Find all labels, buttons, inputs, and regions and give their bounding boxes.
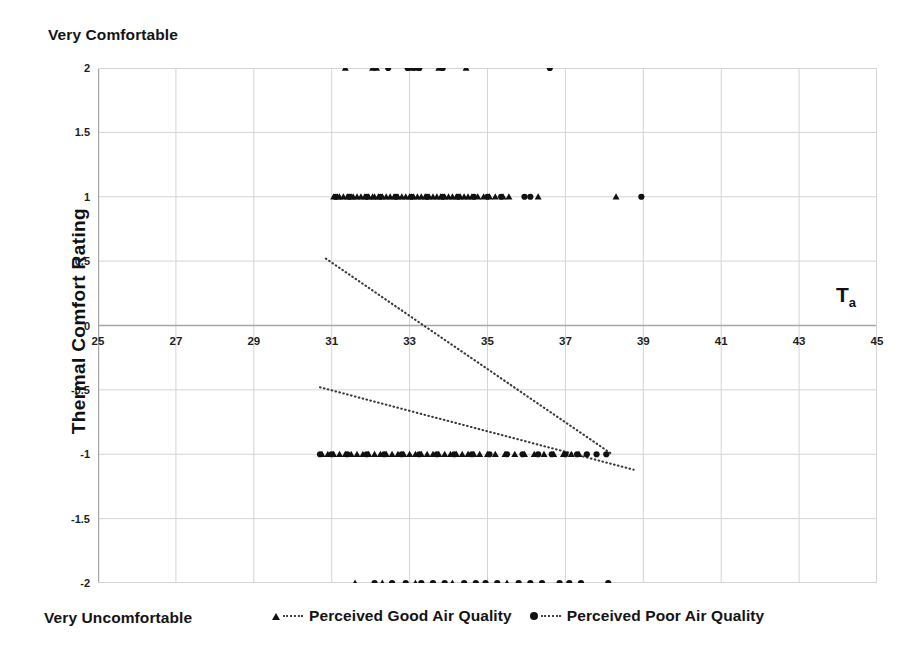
circle-marker-icon xyxy=(562,451,568,457)
y-axis-bottom-annotation: Very Uncomfortable xyxy=(44,609,192,627)
circle-marker-icon xyxy=(469,451,475,457)
circle-marker-icon xyxy=(364,194,370,200)
circle-marker-icon xyxy=(408,194,414,200)
legend-entry-poor-air-quality: Perceived Poor Air Quality xyxy=(530,607,765,625)
triangle-marker-icon xyxy=(272,613,280,620)
y-tick-label: 1 xyxy=(50,191,90,203)
circle-marker-icon xyxy=(527,194,533,200)
circle-marker-icon xyxy=(603,451,609,457)
circle-marker-icon xyxy=(329,451,335,457)
x-tick-label: 33 xyxy=(390,335,430,347)
plot-area xyxy=(98,68,877,583)
circle-marker-icon xyxy=(549,451,555,457)
x-tick-label: 31 xyxy=(312,335,352,347)
circle-marker-icon xyxy=(455,194,461,200)
circle-marker-icon xyxy=(416,451,422,457)
x-tick-label: 25 xyxy=(78,335,118,347)
circle-marker-icon xyxy=(344,451,350,457)
circle-marker-icon xyxy=(521,194,527,200)
legend-entry-good-air-quality: Perceived Good Air Quality xyxy=(272,607,512,625)
plot-svg xyxy=(98,68,877,583)
x-tick-label: 43 xyxy=(779,335,819,347)
circle-marker-icon xyxy=(434,451,440,457)
x-tick-label: 45 xyxy=(857,335,897,347)
circle-marker-icon xyxy=(530,612,538,620)
circle-marker-icon xyxy=(638,194,644,200)
y-tick-label: 0.5 xyxy=(50,255,90,267)
circle-marker-icon xyxy=(574,451,580,457)
circle-marker-icon xyxy=(519,451,525,457)
y-tick-label: 2 xyxy=(50,62,90,74)
circle-marker-icon xyxy=(381,451,387,457)
chart-legend: Perceived Good Air Quality Perceived Poo… xyxy=(272,607,764,625)
dotted-line-icon xyxy=(283,615,303,617)
x-axis-variable-subscript: a xyxy=(849,295,856,310)
circle-marker-icon xyxy=(471,194,477,200)
circle-marker-icon xyxy=(593,451,599,457)
circle-marker-icon xyxy=(424,194,430,200)
circle-marker-icon xyxy=(484,194,490,200)
x-tick-label: 29 xyxy=(234,335,274,347)
y-axis-top-annotation: Very Comfortable xyxy=(48,26,178,44)
y-tick-label: -1 xyxy=(50,448,90,460)
legend-key-good xyxy=(272,613,303,620)
circle-marker-icon xyxy=(317,451,323,457)
x-tick-label: 39 xyxy=(623,335,663,347)
circle-marker-icon xyxy=(486,451,492,457)
y-tick-label: -1.5 xyxy=(50,513,90,525)
x-tick-label: 37 xyxy=(545,335,585,347)
chart-figure: Very Comfortable Thermal Comfort Rating … xyxy=(0,0,911,649)
y-tick-label: 1.5 xyxy=(50,126,90,138)
x-axis-variable-label: Ta xyxy=(836,283,856,310)
circle-marker-icon xyxy=(440,194,446,200)
x-tick-label: 41 xyxy=(701,335,741,347)
legend-key-poor xyxy=(530,612,561,620)
circle-marker-icon xyxy=(393,194,399,200)
legend-label-good-air-quality: Perceived Good Air Quality xyxy=(309,607,512,625)
circle-marker-icon xyxy=(584,451,590,457)
circle-marker-icon xyxy=(399,451,405,457)
y-tick-label: -2 xyxy=(50,577,90,589)
x-tick-label: 27 xyxy=(156,335,196,347)
circle-marker-icon xyxy=(332,194,338,200)
circle-marker-icon xyxy=(498,194,504,200)
circle-marker-icon xyxy=(504,451,510,457)
x-axis-variable-symbol: T xyxy=(836,283,849,306)
y-tick-label: -0.5 xyxy=(50,384,90,396)
circle-marker-icon xyxy=(535,451,541,457)
dotted-line-icon xyxy=(541,615,561,617)
y-tick-label: 0 xyxy=(50,320,90,332)
circle-marker-icon xyxy=(364,451,370,457)
circle-marker-icon xyxy=(451,451,457,457)
circle-marker-icon xyxy=(346,194,352,200)
x-tick-label: 35 xyxy=(468,335,508,347)
legend-label-poor-air-quality: Perceived Poor Air Quality xyxy=(567,607,765,625)
circle-marker-icon xyxy=(377,194,383,200)
